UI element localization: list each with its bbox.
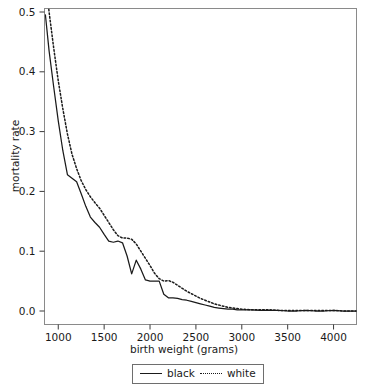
y-axis-title: mortality rate xyxy=(9,113,21,199)
x-tick-label: 1000 xyxy=(45,331,72,343)
y-tick-label: 0.0 xyxy=(19,305,36,317)
series-line-black xyxy=(45,15,356,311)
chart-legend: black white xyxy=(132,364,264,384)
y-tick-label: 0.5 xyxy=(19,6,36,18)
chart-figure: 10001500200025003000350040000.00.10.20.3… xyxy=(0,0,368,385)
y-tick-label: 0.3 xyxy=(19,125,36,137)
y-tick-label: 0.2 xyxy=(19,185,36,197)
series-line-white xyxy=(45,0,356,311)
x-tick-label: 2500 xyxy=(183,331,210,343)
x-tick-label: 3500 xyxy=(274,331,301,343)
y-tick-label: 0.4 xyxy=(19,65,36,77)
x-tick-label: 2000 xyxy=(137,331,164,343)
legend-swatch-white xyxy=(200,373,222,374)
x-tick-label: 1500 xyxy=(91,331,118,343)
x-tick-label: 3000 xyxy=(228,331,255,343)
legend-label-black: black xyxy=(167,366,195,381)
plot-area: 10001500200025003000350040000.00.10.20.3… xyxy=(0,0,368,385)
legend-swatch-black xyxy=(140,373,162,374)
y-tick-label: 0.1 xyxy=(19,245,36,257)
x-tick-label: 4000 xyxy=(320,331,347,343)
legend-label-white: white xyxy=(227,366,256,381)
x-axis-title: birth weight (grams) xyxy=(0,343,368,355)
